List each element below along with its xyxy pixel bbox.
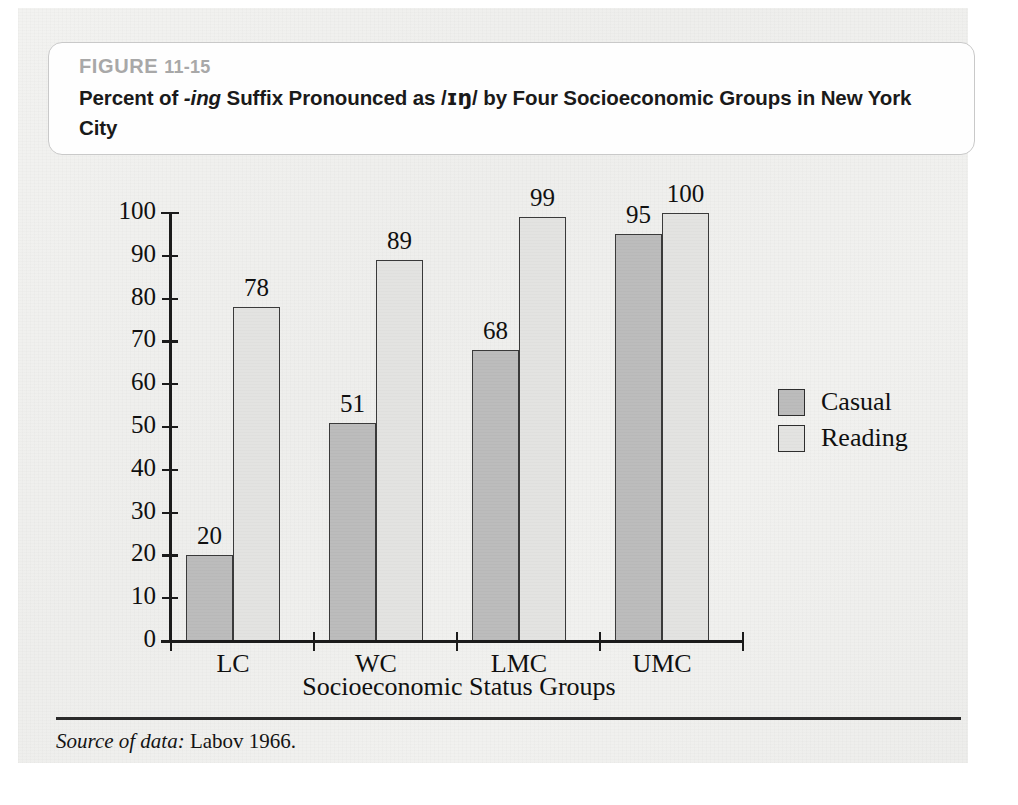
- y-axis-tick-mark: [162, 426, 178, 428]
- y-axis-tick-mark: [162, 554, 178, 556]
- y-axis-tick-mark: [162, 298, 178, 300]
- bar-value-label: 100: [651, 180, 721, 208]
- y-axis-tick-label: 30: [96, 497, 156, 525]
- y-axis-tick-mark: [162, 597, 178, 599]
- legend-swatch-casual: [778, 389, 805, 416]
- y-axis-tick-label: 70: [96, 325, 156, 353]
- y-axis-tick-label: 10: [96, 582, 156, 610]
- legend-label-reading: Reading: [821, 423, 908, 453]
- y-axis-tick-label: 90: [96, 240, 156, 268]
- x-axis-line: [161, 640, 742, 643]
- y-axis-tick-label: 20: [96, 539, 156, 567]
- bar-value-label: 99: [508, 184, 578, 212]
- x-axis-tick-mark: [313, 632, 315, 651]
- bar-wc-casual: [329, 423, 376, 641]
- x-axis-tick-mark: [456, 632, 458, 651]
- figure-page: FIGURE 11-15 Percent of -ing Suffix Pron…: [0, 0, 1018, 805]
- x-axis-tick-mark: [599, 632, 601, 651]
- bar-value-label: 78: [222, 274, 292, 302]
- bar-umc-casual: [615, 234, 662, 641]
- bar-umc-reading: [662, 213, 709, 641]
- y-axis-tick-mark: [162, 469, 178, 471]
- y-axis-tick-label: 100: [96, 197, 156, 225]
- bar-lc-casual: [186, 555, 233, 641]
- bar-wc-reading: [376, 260, 423, 641]
- y-axis-tick-mark: [161, 212, 179, 214]
- source-citation: Labov 1966.: [185, 729, 296, 753]
- y-axis-tick-mark: [162, 340, 178, 342]
- y-axis-tick-label: 40: [96, 454, 156, 482]
- source-note: Source of data: Labov 1966.: [56, 729, 296, 754]
- y-axis-tick-label: 80: [96, 283, 156, 311]
- y-axis-tick-label: 60: [96, 368, 156, 396]
- y-axis-tick-label: 50: [96, 411, 156, 439]
- legend-item-reading: Reading: [778, 420, 908, 456]
- y-axis-tick-mark: [162, 512, 178, 514]
- y-axis-tick-mark: [162, 383, 178, 385]
- x-axis-title: Socioeconomic Status Groups: [169, 672, 749, 702]
- bar-chart: 0102030405060708090100 20785189689995100…: [0, 0, 1018, 805]
- legend-label-casual: Casual: [821, 387, 892, 417]
- bar-value-label: 89: [365, 227, 435, 255]
- bar-lmc-reading: [519, 217, 566, 641]
- chart-legend: Casual Reading: [778, 384, 908, 456]
- x-axis-tick-mark: [742, 632, 744, 651]
- y-axis-tick-mark: [162, 255, 178, 257]
- source-divider: [56, 717, 961, 720]
- x-axis-tick-mark: [170, 632, 172, 651]
- legend-swatch-reading: [778, 425, 805, 452]
- y-axis-tick-label: 0: [96, 625, 156, 653]
- source-label: Source of data:: [56, 729, 185, 753]
- bar-lc-reading: [233, 307, 280, 641]
- legend-item-casual: Casual: [778, 384, 908, 420]
- bar-lmc-casual: [472, 350, 519, 641]
